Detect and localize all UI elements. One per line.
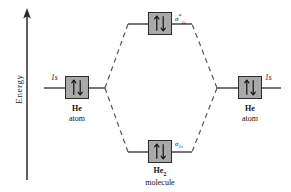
antibonding-orbital-label: σ*1s bbox=[175, 13, 186, 25]
antibonding-orbital-box bbox=[148, 12, 172, 35]
species-label-molecule: He2 molecule bbox=[129, 166, 191, 188]
mo-energy-diagram: Energy σ*1s σ1s bbox=[0, 0, 291, 192]
atomic-orbital-label-right: 1s bbox=[265, 74, 272, 82]
bonding-orbital-label: σ1s bbox=[175, 141, 183, 149]
atomic-orbital-box-left bbox=[65, 76, 89, 99]
species-label-right-atom: He atom bbox=[219, 104, 281, 124]
species-kind-left: atom bbox=[46, 114, 108, 124]
species-name-molecule-subscript: 2 bbox=[163, 171, 166, 177]
species-label-left-atom: He atom bbox=[46, 104, 108, 124]
species-name-left: He bbox=[46, 104, 108, 114]
correlation-lines-left bbox=[105, 24, 128, 152]
correlation-lines-right bbox=[192, 24, 217, 152]
species-name-molecule: He2 bbox=[129, 166, 191, 178]
electron-pair-arrows-left-atom bbox=[66, 77, 88, 98]
atomic-orbital-label-left: 1s bbox=[51, 74, 58, 82]
atomic-orbital-label-left-text: 1s bbox=[51, 73, 58, 82]
species-kind-right: atom bbox=[219, 114, 281, 124]
energy-axis-label: Energy bbox=[14, 59, 24, 119]
electron-pair-arrows-right-atom bbox=[239, 77, 261, 98]
atomic-orbital-box-right bbox=[238, 76, 262, 99]
antibonding-star-superscript: * bbox=[178, 13, 181, 19]
electron-pair-arrows-bonding bbox=[149, 141, 171, 162]
species-name-right: He bbox=[219, 104, 281, 114]
energy-axis bbox=[23, 8, 31, 180]
bonding-orbital-box bbox=[148, 140, 172, 163]
atomic-orbital-label-right-text: 1s bbox=[265, 73, 272, 82]
antibonding-subscript: 1s bbox=[181, 20, 185, 25]
bonding-subscript: 1s bbox=[178, 144, 182, 149]
species-kind-molecule: molecule bbox=[129, 178, 191, 188]
electron-pair-arrows-antibonding bbox=[149, 13, 171, 34]
